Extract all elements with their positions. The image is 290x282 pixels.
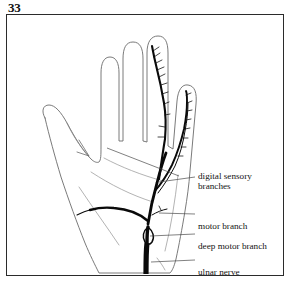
thenar-crease: [79, 187, 119, 245]
figure-container: 33: [0, 0, 290, 282]
proximal-palmar-crease: [91, 172, 153, 202]
twig: [154, 53, 160, 57]
digital-branch-accessory: [152, 209, 167, 215]
leader-line-ulnar-nerve: [151, 260, 195, 262]
digital-branch-accessory-twig: [159, 206, 161, 210]
motor-branch-path: [90, 208, 148, 221]
twig: [159, 74, 165, 77]
hand-outline-path: [43, 36, 196, 273]
ulnar-nerve-trunk-upper: [147, 227, 148, 243]
wrist-crease: [157, 258, 165, 270]
thumb-web-arrowhead: [77, 140, 89, 156]
palm-creases-group: [79, 158, 178, 270]
label-motor-branch: motor branch: [198, 221, 247, 231]
hand-anatomy-diagram: [7, 15, 283, 275]
motor-branch-group: [77, 208, 148, 221]
leader-line-motor-branch: [159, 213, 195, 214]
label-digital-sensory-branches-line2: branches: [198, 181, 252, 191]
label-ulnar-nerve: ulnar nerve: [198, 267, 240, 277]
label-digital-sensory-branches-line1: digital sensory: [198, 171, 252, 181]
figure-number: 33: [8, 1, 21, 14]
leader-line-deep-motor-branch: [150, 234, 195, 236]
leader-line-digital-sensory-upper: [107, 148, 179, 176]
motor-branch-tip: [77, 210, 90, 215]
twig: [153, 47, 159, 51]
ulnar-nerve-group: [143, 227, 153, 274]
twig: [159, 126, 165, 127]
hand-outline-group: [43, 36, 196, 273]
label-deep-motor-branch: deep motor branch: [198, 241, 267, 251]
ulnar-nerve-trunk: [146, 243, 147, 274]
illustration-panel: digital sensory branches motor branch de…: [6, 14, 284, 276]
distal-palmar-crease: [104, 158, 163, 181]
label-digital-sensory-branches: digital sensory branches: [198, 171, 252, 192]
twig: [161, 83, 167, 85]
twig: [157, 67, 164, 70]
twig: [156, 60, 162, 63]
